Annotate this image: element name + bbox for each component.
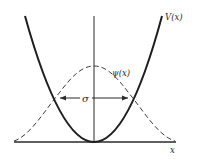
wavefunction-label: ψ(x) <box>112 68 130 78</box>
potential-label: V(x) <box>165 12 183 22</box>
sigma-label: σ <box>82 93 90 104</box>
arrow-right-icon <box>122 96 128 101</box>
arrow-left-icon <box>60 96 66 101</box>
diagram-canvas: σ V(x) ψ(x) x <box>0 0 198 159</box>
x-axis-label: x <box>170 145 175 155</box>
